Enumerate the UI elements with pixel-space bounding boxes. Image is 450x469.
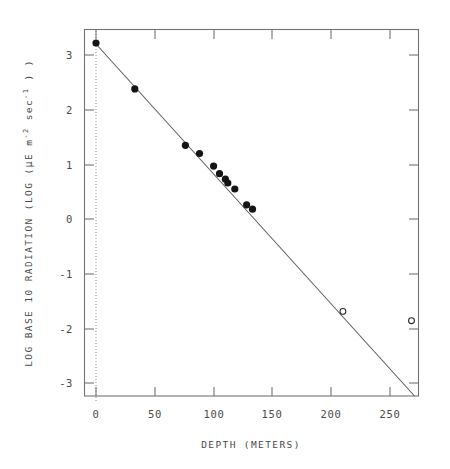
regression-fit-line bbox=[96, 44, 415, 396]
y-axis-title-tail: ) ) bbox=[23, 59, 34, 87]
x-tick-label: 250 bbox=[380, 408, 401, 420]
y-axis-title-exponent-2: -1 bbox=[22, 88, 30, 99]
y-axis-title-exponent-1: -2 bbox=[22, 127, 30, 138]
y-axis-title-lead: LOG BASE 10 RADIATION (LOG ( bbox=[23, 167, 34, 366]
y-tick-label: 3 bbox=[66, 49, 73, 61]
data-point-filled bbox=[92, 39, 99, 46]
x-tick-label: 100 bbox=[204, 408, 225, 420]
y-tick-label: -1 bbox=[59, 268, 73, 280]
data-series-extrapolated bbox=[340, 309, 414, 324]
data-point-filled bbox=[231, 185, 238, 192]
plot-frame bbox=[85, 30, 419, 397]
data-point-filled bbox=[243, 201, 250, 208]
data-point-open bbox=[340, 309, 346, 315]
data-point-filled bbox=[216, 170, 223, 177]
y-tick-label: 1 bbox=[66, 159, 73, 171]
y-axis-title-text: LOG BASE 10 RADIATION (LOG (μE m-2 sec-1… bbox=[22, 59, 34, 367]
y-tick-label: 2 bbox=[66, 104, 73, 116]
y-axis-title: LOG BASE 10 RADIATION (LOG (μE m-2 sec-1… bbox=[22, 59, 34, 367]
x-tick-label: 50 bbox=[148, 408, 162, 420]
y-tick-label: -2 bbox=[59, 323, 73, 335]
figure-container: 0 50 100 150 200 250 3 2 1 0 -1 -2 -3 DE… bbox=[0, 0, 450, 469]
x-tick-label: 150 bbox=[262, 408, 283, 420]
scatter-plot: 0 50 100 150 200 250 3 2 1 0 -1 -2 -3 DE… bbox=[0, 0, 450, 469]
y-axis-title-mid2: sec bbox=[23, 99, 34, 127]
y-tick-label: 0 bbox=[66, 213, 73, 225]
data-point-filled bbox=[196, 150, 203, 157]
y-tick-label: -3 bbox=[59, 377, 73, 389]
y-axis-ticks-left bbox=[85, 55, 94, 383]
data-series-measured bbox=[92, 39, 256, 212]
y-axis-tick-labels: 3 2 1 0 -1 -2 -3 bbox=[59, 49, 73, 389]
data-point-filled bbox=[131, 85, 138, 92]
data-point-filled bbox=[182, 142, 189, 149]
x-axis-title-text: DEPTH (METERS) bbox=[201, 439, 301, 450]
data-point-filled bbox=[249, 206, 256, 213]
x-axis-tick-labels: 0 50 100 150 200 250 bbox=[93, 408, 401, 420]
x-axis-title: DEPTH (METERS) bbox=[201, 439, 301, 450]
data-point-open bbox=[409, 318, 415, 324]
data-point-filled bbox=[210, 163, 217, 170]
y-axis-title-mid1: E m bbox=[23, 139, 34, 160]
y-axis-ticks-right bbox=[409, 55, 418, 383]
x-tick-label: 200 bbox=[321, 408, 342, 420]
x-tick-label: 0 bbox=[93, 408, 100, 420]
x-axis-ticks-bottom bbox=[96, 387, 390, 396]
x-axis-ticks-top bbox=[96, 30, 390, 39]
y-axis-title-greek-mu: μ bbox=[23, 160, 34, 167]
data-point-filled bbox=[224, 179, 231, 186]
